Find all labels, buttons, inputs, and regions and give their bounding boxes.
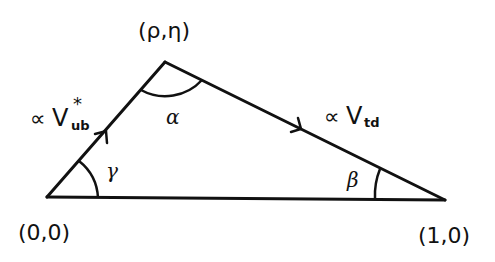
vertex-label-origin: (0,0): [18, 220, 70, 245]
vertex-label-apex: (ρ,η): [138, 18, 190, 43]
side-label-vub-symbol: V: [52, 104, 69, 132]
side-label-vub: ∝ V * ub: [30, 93, 90, 133]
side-label-vub-superscript: *: [73, 93, 82, 114]
side-base: [47, 197, 445, 200]
side-label-vtd-prefix: ∝: [324, 104, 340, 129]
side-label-vub-prefix: ∝: [30, 106, 46, 131]
unitarity-triangle-diagram: (ρ,η) (0,0) (1,0) α γ β ∝ V * ub ∝ V td: [0, 0, 495, 262]
side-label-vtd-symbol: V: [346, 102, 363, 130]
side-label-vtd: ∝ V td: [324, 102, 380, 130]
side-top: [165, 62, 445, 200]
angle-arc-gamma: [79, 161, 98, 198]
angle-label-alpha: α: [166, 105, 180, 129]
angle-label-beta: β: [346, 168, 359, 192]
side-label-vub-subscript: ub: [71, 118, 90, 133]
angle-label-gamma: γ: [106, 159, 118, 183]
side-label-vtd-subscript: td: [364, 115, 380, 130]
angle-arc-alpha: [141, 80, 202, 96]
vertex-label-right: (1,0): [418, 223, 470, 248]
angle-arc-beta: [375, 169, 380, 199]
